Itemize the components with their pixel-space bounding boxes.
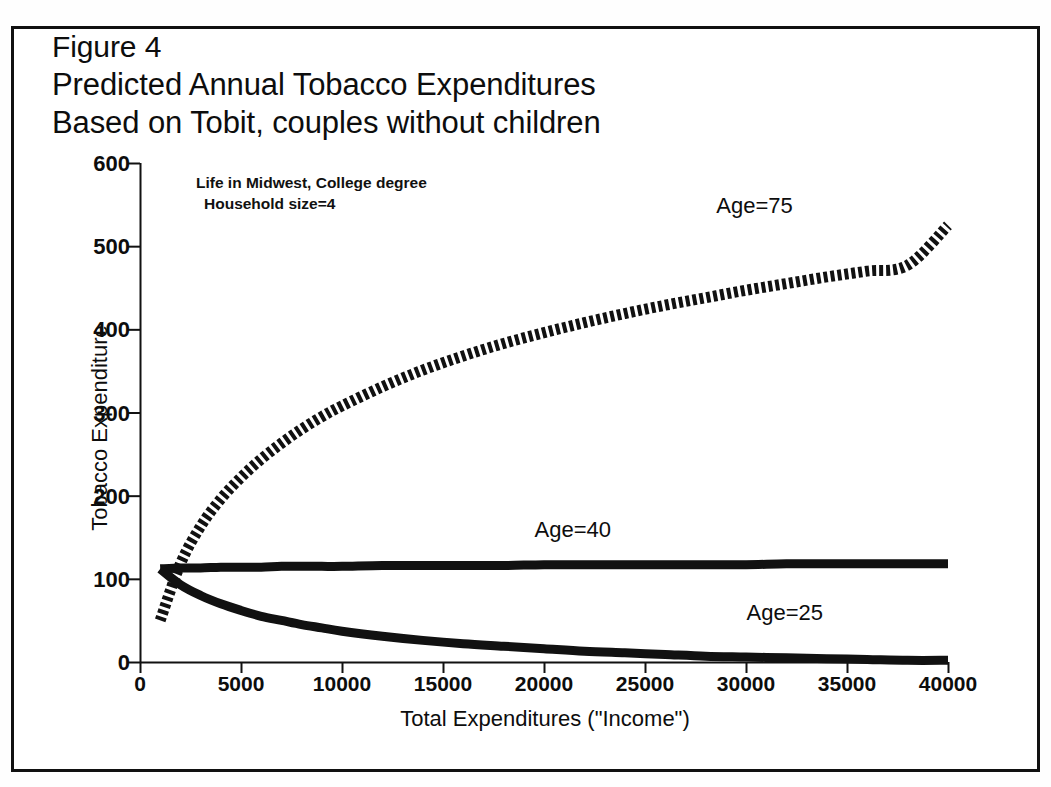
- series-label-age-40: Age=40: [535, 517, 611, 543]
- series-label-age-75: Age=75: [716, 193, 792, 219]
- page-canvas: Figure 4 Predicted Annual Tobacco Expend…: [0, 0, 1051, 787]
- y-tick-label: 600: [66, 151, 130, 177]
- annotation-line-1: Life in Midwest, College degree: [196, 174, 427, 191]
- chart: 0100200300400500600 05000100001500020000…: [0, 0, 1051, 787]
- series-label-age-25: Age=25: [747, 600, 823, 626]
- plot-annotation: Life in Midwest, College degree Househol…: [196, 172, 427, 214]
- x-tick-label: 40000: [883, 672, 1013, 696]
- x-axis-tick-labels: 0500010000150002000025000300003500040000: [0, 672, 1051, 706]
- series-line-age-40: [160, 564, 948, 569]
- x-axis-title: Total Expenditures ("Income"): [140, 706, 950, 732]
- series-paths: [160, 225, 948, 660]
- y-axis-title: Tobacco Expenditure: [87, 268, 113, 588]
- series-line-age-25: [160, 569, 948, 661]
- y-tick-label: 500: [66, 234, 130, 260]
- plot-svg: [0, 0, 1051, 787]
- annotation-line-2: Household size=4: [196, 193, 427, 214]
